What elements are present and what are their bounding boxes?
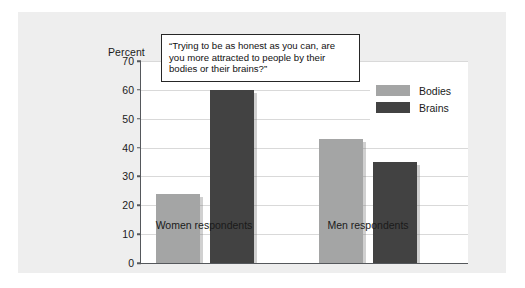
x-category-label-women: Women respondents <box>156 219 253 231</box>
legend-item-bodies: Bodies <box>376 82 464 99</box>
legend-label-brains: Brains <box>419 102 449 114</box>
y-tick-mark <box>137 89 141 91</box>
y-tick-mark <box>137 205 141 207</box>
y-tick-mark <box>137 233 141 235</box>
gridline <box>141 148 468 149</box>
y-tick-mark <box>137 118 141 120</box>
y-tick-mark <box>137 60 141 62</box>
legend-swatch-brains-icon <box>376 102 410 113</box>
y-tick-mark <box>137 262 141 264</box>
y-tick-label: 10 <box>122 228 134 240</box>
y-tick-label: 30 <box>122 170 134 182</box>
bar-bodies-men[interactable] <box>319 139 363 263</box>
y-tick-label: 20 <box>122 199 134 211</box>
y-tick-label: 60 <box>122 84 134 96</box>
y-tick-label: 40 <box>122 142 134 154</box>
figure-panel: Percent 010203040506070 Women respondent… <box>18 12 506 273</box>
bar-brains-men[interactable] <box>373 162 417 263</box>
legend-item-brains: Brains <box>376 99 464 116</box>
legend-label-bodies: Bodies <box>419 85 451 97</box>
chart-legend: Bodies Brains <box>370 78 468 121</box>
y-tick-mark <box>137 147 141 149</box>
y-tick-mark <box>137 176 141 178</box>
legend-swatch-bodies-icon <box>376 85 410 96</box>
bar-brains-women[interactable] <box>210 90 254 263</box>
y-tick-label: 70 <box>122 55 134 67</box>
y-tick-label: 0 <box>128 257 134 269</box>
x-category-label-men: Men respondents <box>327 219 408 231</box>
y-tick-label: 50 <box>122 113 134 125</box>
question-callout-box: “Trying to be as honest as you can, are … <box>161 34 360 82</box>
